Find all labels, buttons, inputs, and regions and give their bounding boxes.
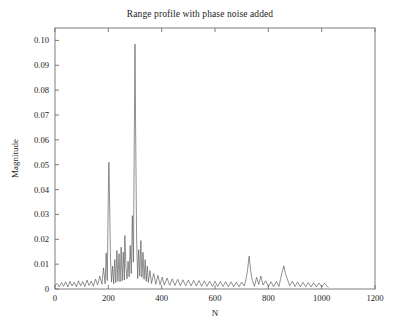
y-tick-label: 0.02 bbox=[34, 234, 49, 244]
plot-frame bbox=[55, 28, 375, 289]
y-tick-label: 0 bbox=[45, 284, 49, 294]
x-axis-ticks: 020040060080010001200 bbox=[53, 28, 384, 303]
x-tick-label: 800 bbox=[262, 293, 275, 303]
x-axis-label: N bbox=[212, 308, 219, 318]
x-tick-label: 600 bbox=[209, 293, 222, 303]
range-profile-plot: 00.010.020.030.040.050.060.070.080.090.1… bbox=[0, 0, 400, 333]
x-tick-label: 400 bbox=[155, 293, 168, 303]
y-axis-label: Magnitude bbox=[10, 139, 20, 178]
y-tick-label: 0.09 bbox=[34, 60, 49, 70]
y-tick-label: 0.01 bbox=[34, 259, 49, 269]
x-tick-label: 200 bbox=[102, 293, 115, 303]
series-line-range-profile bbox=[55, 44, 328, 287]
chart-figure: Range profile with phase noise added 00.… bbox=[0, 0, 400, 333]
y-tick-label: 0.03 bbox=[34, 209, 49, 219]
y-tick-label: 0.04 bbox=[34, 185, 50, 195]
x-tick-label: 0 bbox=[53, 293, 57, 303]
x-tick-label: 1200 bbox=[366, 293, 383, 303]
y-tick-label: 0.06 bbox=[34, 135, 50, 145]
y-tick-label: 0.08 bbox=[34, 85, 49, 95]
y-tick-label: 0.05 bbox=[34, 160, 49, 170]
y-tick-label: 0.10 bbox=[34, 35, 49, 45]
x-tick-label: 1000 bbox=[313, 293, 330, 303]
y-tick-label: 0.07 bbox=[34, 110, 50, 120]
